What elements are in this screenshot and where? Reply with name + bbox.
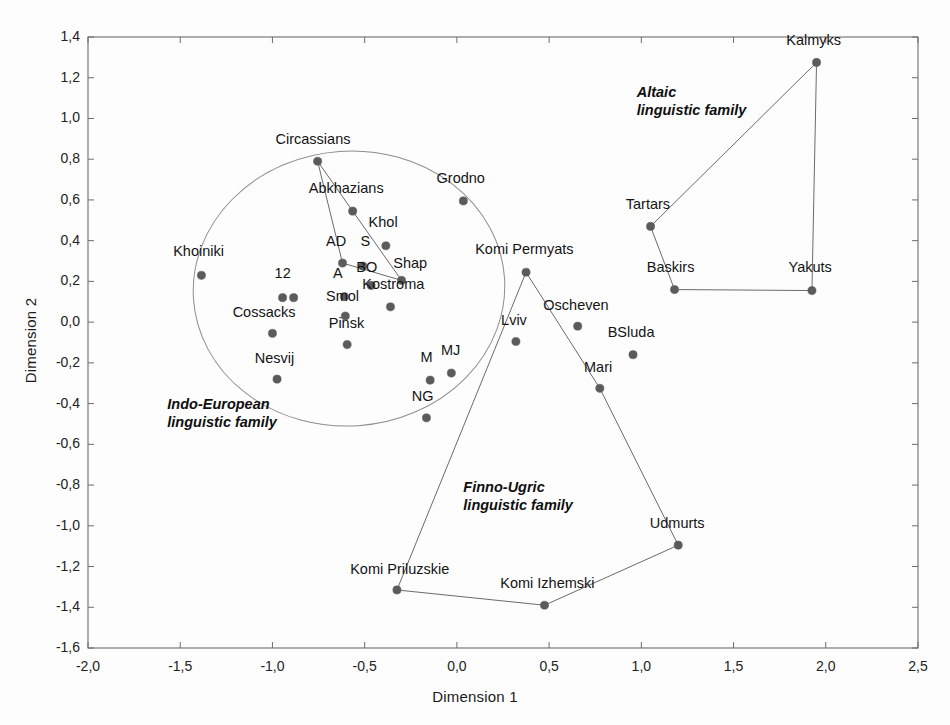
point-label: M <box>420 350 432 365</box>
y-tick-label: -1,6 <box>26 639 80 655</box>
y-tick-label: -0,6 <box>26 435 80 451</box>
y-tick-label: -1,2 <box>26 558 80 574</box>
point-label: Nesvij <box>255 351 294 366</box>
point-label: BO <box>356 260 377 275</box>
point-label: Pinsk <box>329 316 364 331</box>
point-label: NG <box>412 389 434 404</box>
data-point-marker <box>268 329 276 337</box>
data-point-marker <box>540 601 548 609</box>
y-tick-label: -0,8 <box>26 476 80 492</box>
x-tick-label: -1,0 <box>242 658 302 674</box>
data-point-marker <box>596 384 604 392</box>
point-label: Grodno <box>437 171 485 186</box>
point-label: Komi Permyats <box>475 242 573 257</box>
data-point-marker <box>314 157 322 165</box>
y-tick-label: -1,4 <box>26 598 80 614</box>
group-label-altaic: Altaiclinguistic family <box>637 83 747 119</box>
point-label: Baskirs <box>647 260 695 275</box>
data-point-marker <box>459 197 467 205</box>
group-label-line1: Altaic <box>637 83 747 101</box>
point-label: Kostroma <box>362 277 424 292</box>
x-tick-label: 1,0 <box>611 658 671 674</box>
group-label-line2: linguistic family <box>637 101 747 119</box>
group-label-line1: Indo-European <box>167 395 277 413</box>
point-label: Circassians <box>276 132 351 147</box>
data-point-marker <box>290 294 298 302</box>
point-label: Lviv <box>501 313 527 328</box>
y-axis-title: Dimension 2 <box>22 251 39 431</box>
point-label: Kalmyks <box>786 33 841 48</box>
point-label: MJ <box>441 343 460 358</box>
data-point-marker <box>422 414 430 422</box>
y-tick-label: 0,6 <box>26 191 80 207</box>
point-label: BSluda <box>608 325 655 340</box>
data-point-marker <box>646 222 654 230</box>
data-point-marker <box>426 376 434 384</box>
x-tick-label: 1,5 <box>704 658 764 674</box>
x-tick-label: 2,0 <box>796 658 856 674</box>
data-point-marker <box>574 322 582 330</box>
point-label: Udmurts <box>650 516 705 531</box>
point-label: AD <box>326 234 346 249</box>
data-point-marker <box>670 285 678 293</box>
point-label: Yakuts <box>789 260 832 275</box>
group-label-line2: linguistic family <box>167 413 277 431</box>
connection-line <box>675 290 812 291</box>
data-point-marker <box>349 207 357 215</box>
connection-line <box>812 62 817 290</box>
point-label: Khoiniki <box>173 244 224 259</box>
axes-layer <box>88 37 918 648</box>
group-label-line1: Finno-Ugric <box>463 478 573 496</box>
group-label-line2: linguistic family <box>463 496 573 514</box>
plot-frame <box>88 37 918 648</box>
point-label: Khol <box>369 215 398 230</box>
y-tick-label: -1,0 <box>26 517 80 533</box>
data-point-marker <box>343 340 351 348</box>
data-point-marker <box>674 541 682 549</box>
point-label: Mari <box>584 360 612 375</box>
data-point-marker <box>512 337 520 345</box>
x-tick-label: 0,5 <box>519 658 579 674</box>
group-label-finno-ugric: Finno-Ugriclinguistic family <box>463 478 573 514</box>
data-point-marker <box>386 303 394 311</box>
point-label: 12 <box>275 266 291 281</box>
y-tick-label: 1,2 <box>26 69 80 85</box>
y-tick-label: 0,8 <box>26 150 80 166</box>
x-tick-label: -2,0 <box>58 658 118 674</box>
point-label: A <box>333 266 343 281</box>
y-tick-label: 0,4 <box>26 232 80 248</box>
point-label: Shap <box>393 256 427 271</box>
data-point-marker <box>447 369 455 377</box>
point-label: Tartars <box>626 197 670 212</box>
x-tick-label: 0,0 <box>427 658 487 674</box>
y-tick-label: 1,4 <box>26 28 80 44</box>
data-point-marker <box>629 351 637 359</box>
point-label: Smol <box>326 289 359 304</box>
connection-lines-layer <box>318 62 817 605</box>
x-tick-label: -0,5 <box>335 658 395 674</box>
data-point-marker <box>273 375 281 383</box>
plot-canvas <box>0 0 950 725</box>
x-tick-label: 2,5 <box>888 658 948 674</box>
data-point-marker <box>522 268 530 276</box>
point-label: Abkhazians <box>309 181 384 196</box>
connection-line <box>651 226 675 289</box>
x-tick-label: -1,5 <box>150 658 210 674</box>
data-point-marker <box>382 242 390 250</box>
scatter-figure: -2,0-1,5-1,0-0,50,00,51,01,52,02,51,41,2… <box>0 0 950 725</box>
point-label: Komi Priluzskie <box>350 562 449 577</box>
point-label: Cossacks <box>233 305 296 320</box>
y-tick-label: 1,0 <box>26 109 80 125</box>
point-label: Komi Izhemski <box>500 576 594 591</box>
x-axis-title: Dimension 1 <box>0 688 950 705</box>
data-point-marker <box>197 271 205 279</box>
point-label: Oscheven <box>543 298 608 313</box>
point-label: S <box>361 234 371 249</box>
group-label-indo-european: Indo-Europeanlinguistic family <box>167 395 277 431</box>
data-point-marker <box>812 58 820 66</box>
connection-line <box>397 590 545 605</box>
data-point-marker <box>808 286 816 294</box>
data-point-marker <box>393 586 401 594</box>
data-point-marker <box>278 294 286 302</box>
